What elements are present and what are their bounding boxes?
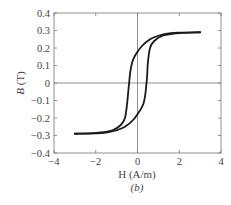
y-tick-label: 0.2 — [37, 43, 50, 54]
x-tick-label: 2 — [177, 156, 182, 167]
y-tick-label: −0.3 — [31, 130, 50, 141]
x-tick-label: −2 — [90, 156, 101, 167]
x-tick-label: 4 — [218, 156, 224, 167]
y-tick-label: −0.1 — [31, 95, 50, 106]
y-tick-label: −0.2 — [31, 113, 50, 124]
x-tick-label: 0 — [135, 156, 140, 167]
figure-caption: (b) — [131, 181, 144, 194]
y-tick-label: −0.4 — [31, 148, 51, 159]
y-tick-label: 0 — [45, 78, 50, 89]
y-tick-label: 0.4 — [37, 8, 51, 19]
y-tick-label: 0.1 — [37, 60, 50, 71]
hysteresis-chart: −4−20240.40.30.20.10−0.1−0.2−0.3−0.4 B (… — [0, 0, 231, 205]
y-tick-label: 0.3 — [37, 25, 50, 36]
zero-axes — [54, 13, 221, 153]
y-axis-label: B (T) — [14, 71, 27, 95]
x-axis-label: H (A/m) — [118, 168, 156, 181]
x-tick-label: −4 — [48, 156, 60, 167]
